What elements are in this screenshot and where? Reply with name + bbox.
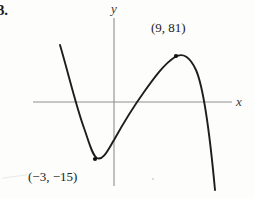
local-maximum-marker — [174, 54, 178, 58]
cubic-curve — [60, 45, 215, 190]
x-axis-label: x — [236, 94, 242, 110]
y-axis-label: y — [111, 1, 117, 17]
figure-page: 3. y x (9, 81) (−3, −15) — [0, 0, 254, 199]
local-minimum-marker — [93, 157, 97, 161]
scan-speck — [152, 178, 154, 180]
local-minimum-label: (−3, −15) — [28, 169, 77, 185]
local-maximum-label: (9, 81) — [151, 20, 186, 36]
